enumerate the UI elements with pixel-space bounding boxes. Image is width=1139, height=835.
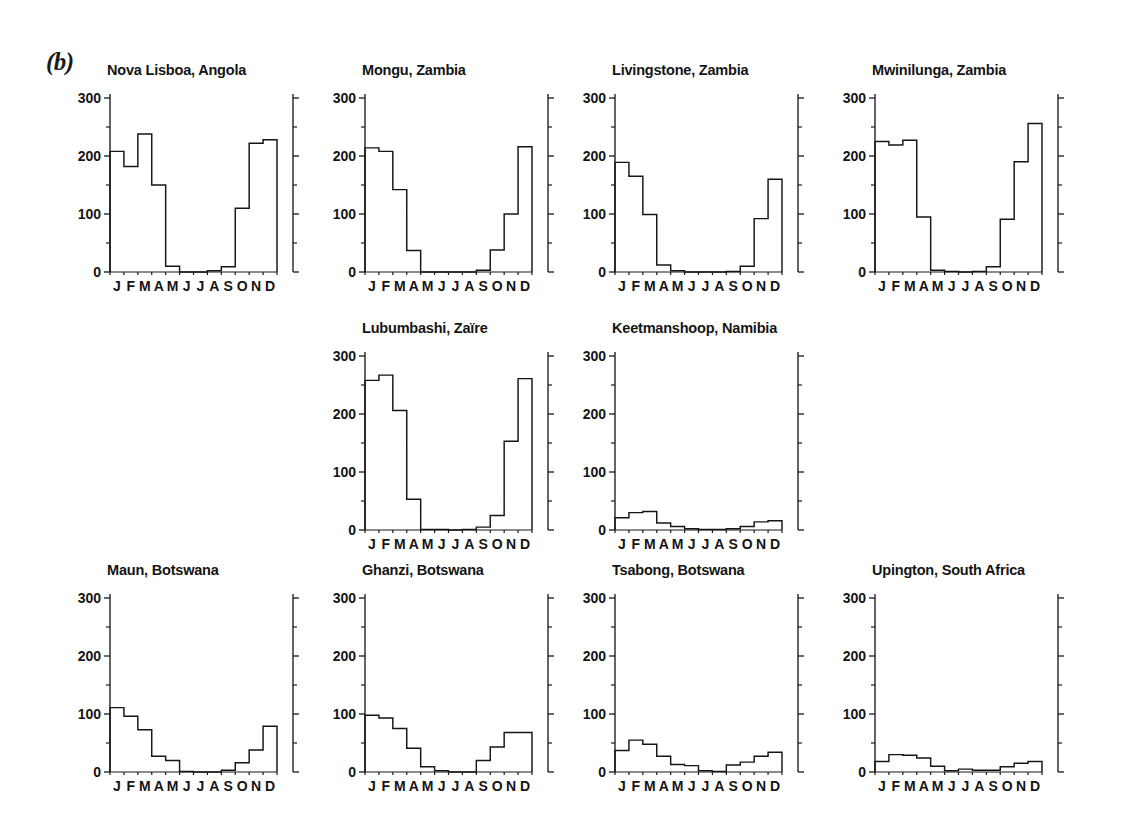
plot-area: 0100200300JFMAMJJASOND bbox=[310, 344, 560, 568]
month-label-o-9: O bbox=[237, 278, 248, 294]
month-label-n-10: N bbox=[251, 278, 261, 294]
month-label-s-8: S bbox=[729, 536, 738, 552]
month-label-m-4: M bbox=[932, 278, 944, 294]
month-label-f-1: F bbox=[382, 536, 391, 552]
chart-panel: Maun, Botswana0100200300JFMAMJJASOND bbox=[55, 560, 305, 810]
y-tick-label: 300 bbox=[843, 90, 867, 106]
rainfall-step-series bbox=[365, 147, 532, 272]
month-label-n-10: N bbox=[1016, 778, 1026, 794]
panel-row-3: Maun, Botswana0100200300JFMAMJJASONDGhan… bbox=[0, 560, 1139, 810]
month-label-s-8: S bbox=[479, 278, 488, 294]
y-tick-label: 0 bbox=[598, 764, 606, 780]
y-tick-label: 0 bbox=[348, 764, 356, 780]
month-label-o-9: O bbox=[1002, 778, 1013, 794]
month-label-d-11: D bbox=[770, 536, 780, 552]
chart-title: Lubumbashi, Zaïre bbox=[362, 320, 572, 336]
month-label-a-3: A bbox=[409, 778, 419, 794]
month-label-n-10: N bbox=[756, 278, 766, 294]
chart-title: Mongu, Zambia bbox=[362, 62, 572, 78]
month-label-a-3: A bbox=[409, 536, 419, 552]
plot-area: 0100200300JFMAMJJASOND bbox=[55, 86, 305, 310]
month-label-j-0: J bbox=[878, 278, 886, 294]
month-label-j-0: J bbox=[618, 778, 626, 794]
month-label-n-10: N bbox=[506, 778, 516, 794]
month-label-m-2: M bbox=[644, 278, 656, 294]
plot-area: 0100200300JFMAMJJASOND bbox=[55, 586, 305, 810]
y-tick-label: 100 bbox=[78, 206, 102, 222]
rainfall-step-series bbox=[615, 511, 782, 530]
y-tick-label: 200 bbox=[583, 148, 607, 164]
month-label-a-3: A bbox=[154, 778, 164, 794]
y-tick-label: 0 bbox=[858, 264, 866, 280]
month-label-s-8: S bbox=[224, 278, 233, 294]
month-label-j-5: J bbox=[438, 778, 446, 794]
y-tick-label: 300 bbox=[583, 90, 607, 106]
month-label-j-6: J bbox=[197, 278, 205, 294]
month-label-j-5: J bbox=[438, 278, 446, 294]
y-tick-label: 200 bbox=[583, 648, 607, 664]
plot-area: 0100200300JFMAMJJASOND bbox=[560, 344, 810, 568]
panel-row-2: Lubumbashi, Zaïre0100200300JFMAMJJASONDK… bbox=[0, 318, 1139, 568]
month-label-j-5: J bbox=[438, 536, 446, 552]
plot-area: 0100200300JFMAMJJASOND bbox=[820, 586, 1070, 810]
chart-panel: Ghanzi, Botswana0100200300JFMAMJJASOND bbox=[310, 560, 560, 810]
y-tick-label: 0 bbox=[93, 264, 101, 280]
y-tick-label: 100 bbox=[333, 706, 357, 722]
month-label-a-3: A bbox=[154, 278, 164, 294]
month-label-a-3: A bbox=[659, 778, 669, 794]
rainfall-step-series bbox=[615, 740, 782, 772]
month-label-n-10: N bbox=[756, 536, 766, 552]
month-label-d-11: D bbox=[520, 778, 530, 794]
rainfall-step-series bbox=[365, 715, 532, 772]
y-tick-label: 0 bbox=[348, 264, 356, 280]
rainfall-step-series bbox=[875, 124, 1042, 272]
month-label-a-7: A bbox=[464, 278, 474, 294]
y-tick-label: 300 bbox=[333, 90, 357, 106]
rainfall-step-series bbox=[110, 708, 277, 772]
month-label-n-10: N bbox=[506, 536, 516, 552]
y-tick-label: 100 bbox=[583, 464, 607, 480]
month-label-o-9: O bbox=[237, 778, 248, 794]
plot-area: 0100200300JFMAMJJASOND bbox=[310, 86, 560, 310]
plot-wrapper: 0100200300JFMAMJJASOND bbox=[55, 86, 305, 310]
month-label-f-1: F bbox=[892, 278, 901, 294]
month-label-m-2: M bbox=[394, 278, 406, 294]
month-label-m-4: M bbox=[422, 778, 434, 794]
month-label-s-8: S bbox=[224, 778, 233, 794]
month-label-j-0: J bbox=[368, 536, 376, 552]
month-label-m-2: M bbox=[644, 778, 656, 794]
month-label-o-9: O bbox=[1002, 278, 1013, 294]
y-tick-label: 0 bbox=[93, 764, 101, 780]
month-label-a-7: A bbox=[974, 278, 984, 294]
month-label-d-11: D bbox=[770, 278, 780, 294]
month-label-m-2: M bbox=[139, 278, 151, 294]
month-label-m-4: M bbox=[672, 278, 684, 294]
month-label-j-0: J bbox=[113, 278, 121, 294]
chart-title: Upington, South Africa bbox=[872, 562, 1082, 578]
month-label-d-11: D bbox=[520, 278, 530, 294]
chart-title: Ghanzi, Botswana bbox=[362, 562, 572, 578]
month-label-n-10: N bbox=[1016, 278, 1026, 294]
y-tick-label: 300 bbox=[583, 348, 607, 364]
month-label-d-11: D bbox=[770, 778, 780, 794]
month-label-m-4: M bbox=[167, 778, 179, 794]
month-label-j-0: J bbox=[878, 778, 886, 794]
plot-wrapper: 0100200300JFMAMJJASOND bbox=[310, 86, 560, 310]
month-label-m-4: M bbox=[672, 536, 684, 552]
month-label-j-6: J bbox=[452, 278, 460, 294]
month-label-m-4: M bbox=[422, 536, 434, 552]
chart-title: Maun, Botswana bbox=[107, 562, 317, 578]
panel-row-1: Nova Lisboa, Angola0100200300JFMAMJJASON… bbox=[0, 60, 1139, 310]
month-label-j-5: J bbox=[948, 778, 956, 794]
month-label-a-3: A bbox=[659, 278, 669, 294]
month-label-j-0: J bbox=[618, 278, 626, 294]
month-label-a-7: A bbox=[464, 778, 474, 794]
month-label-s-8: S bbox=[729, 778, 738, 794]
month-label-d-11: D bbox=[265, 278, 275, 294]
month-label-f-1: F bbox=[632, 536, 641, 552]
month-label-s-8: S bbox=[479, 536, 488, 552]
month-label-f-1: F bbox=[382, 278, 391, 294]
month-label-m-2: M bbox=[904, 778, 916, 794]
y-tick-label: 200 bbox=[333, 406, 357, 422]
rainfall-step-series bbox=[365, 375, 532, 530]
